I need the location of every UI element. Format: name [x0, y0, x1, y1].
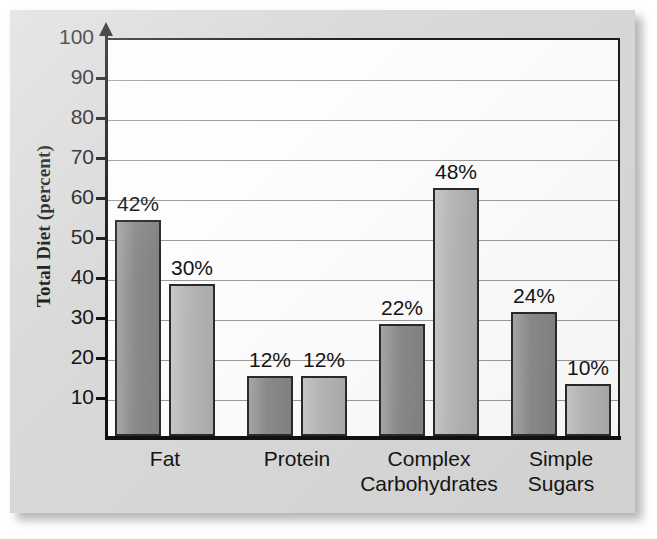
- bar-sheen: [171, 286, 213, 434]
- y-axis-tick-label: 30: [16, 305, 94, 329]
- gridline: [106, 280, 618, 281]
- bar: [169, 284, 215, 436]
- y-axis-tick: [96, 157, 108, 160]
- y-axis-tick-label: 70: [16, 145, 94, 169]
- y-axis-tick: [96, 237, 108, 240]
- gridline: [106, 160, 618, 161]
- y-axis-tick-label: 100: [16, 25, 94, 49]
- y-axis-arrow-icon: [99, 22, 113, 36]
- bar-sheen: [435, 190, 477, 434]
- y-axis-tick-label: 40: [16, 265, 94, 289]
- bar-value-label: 10%: [553, 356, 623, 380]
- y-axis-tick-label: 20: [16, 345, 94, 369]
- y-axis-tick: [96, 117, 108, 120]
- y-axis-tick-label: 90: [16, 65, 94, 89]
- gridline: [106, 120, 618, 121]
- bar: [115, 220, 161, 436]
- bar-sheen: [567, 386, 609, 434]
- bar: [301, 376, 347, 436]
- bar-value-label: 42%: [103, 192, 173, 216]
- bar-sheen: [381, 326, 423, 434]
- y-axis-tick: [96, 397, 108, 400]
- chart-figure: 102030405060708090100 Total Diet (percen…: [10, 10, 635, 513]
- bar-sheen: [303, 378, 345, 434]
- y-axis-tick: [96, 357, 108, 360]
- y-axis-line: [105, 32, 108, 440]
- y-axis-tick-label: 60: [16, 185, 94, 209]
- y-axis-title: Total Diet (percent): [33, 106, 55, 346]
- x-axis-line: [105, 436, 621, 440]
- y-axis-tick: [96, 277, 108, 280]
- bar: [247, 376, 293, 436]
- gridline: [106, 240, 618, 241]
- plot-area: [106, 38, 620, 438]
- y-axis-tick-label: 10: [16, 385, 94, 409]
- bar: [433, 188, 479, 436]
- bar-sheen: [249, 378, 291, 434]
- y-axis-tick-label: 50: [16, 225, 94, 249]
- bar-sheen: [513, 314, 555, 434]
- bar-value-label: 48%: [421, 160, 491, 184]
- bar-value-label: 12%: [289, 348, 359, 372]
- bar-sheen: [117, 222, 159, 434]
- y-axis-tick-label: 80: [16, 105, 94, 129]
- bar: [565, 384, 611, 436]
- gridline: [106, 200, 618, 201]
- bar-value-label: 30%: [157, 256, 227, 280]
- bar-value-label: 22%: [367, 296, 437, 320]
- x-axis-category-label: Simple Sugars: [471, 446, 635, 496]
- bar: [511, 312, 557, 436]
- y-axis-tick: [96, 77, 108, 80]
- y-axis-tick: [96, 317, 108, 320]
- bar-value-label: 24%: [499, 284, 569, 308]
- gridline: [106, 80, 618, 81]
- bar: [379, 324, 425, 436]
